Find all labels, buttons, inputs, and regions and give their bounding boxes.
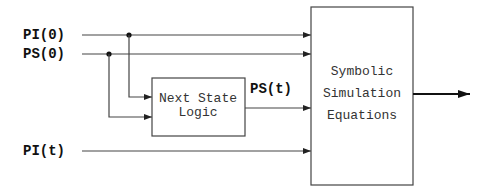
label-pi0: PI(0) (23, 27, 65, 43)
sse-label-line1: Symbolic (331, 64, 393, 79)
wire-pi0-to-nsl (129, 35, 152, 97)
nsl-label-line2: Logic (178, 105, 217, 120)
label-pst: PS(t) (250, 81, 292, 97)
sse-label-line3: Equations (327, 108, 397, 123)
label-ps0: PS(0) (23, 46, 65, 62)
symbolic-simulation-diagram: PI(0) PS(0) PI(t) Next State Logic PS(t)… (0, 0, 491, 193)
sse-label-line2: Simulation (323, 86, 401, 101)
nsl-label-line1: Next State (159, 91, 237, 106)
label-pit: PI(t) (23, 143, 65, 159)
wire-ps0-to-nsl (109, 54, 152, 117)
